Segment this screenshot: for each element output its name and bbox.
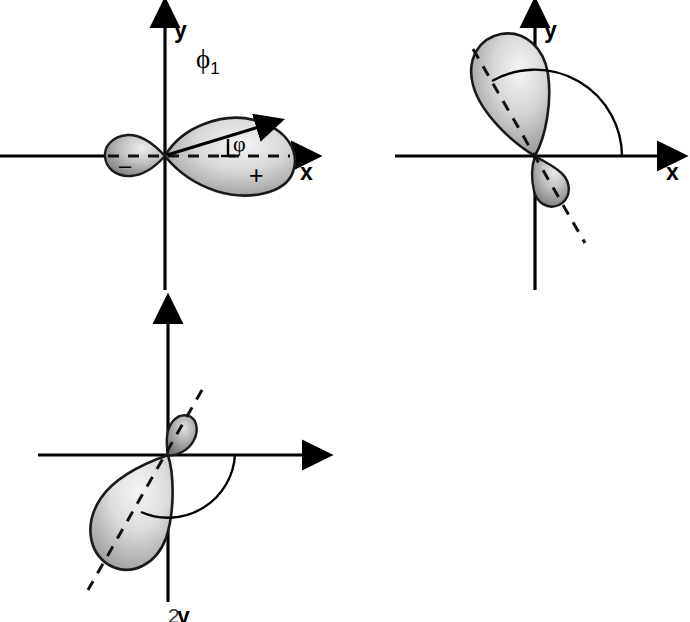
axis-group [38, 318, 308, 602]
lobe-sign-positive: + [249, 163, 264, 188]
orbital-panel-phi2: ϕ2 120° + – y x [345, 0, 690, 290]
caption-fragment: 2 [168, 604, 180, 622]
orbital-label-phi1: ϕ1 [196, 46, 220, 77]
x-axis-label: x [666, 161, 679, 184]
orbital-lobe-negative [167, 415, 197, 455]
orbital-diagram-phi1 [0, 0, 345, 290]
orbital-lobe-positive [471, 33, 549, 156]
orbital-panel-phi3: ϕ3 120° + – y x [0, 290, 345, 622]
bottom-cropped-caption: 2 [0, 596, 690, 622]
y-axis-label: y [544, 19, 557, 42]
orbital-lobe-negative [532, 156, 569, 207]
x-axis-label: x [300, 161, 313, 184]
orbital-diagram-phi3 [0, 290, 345, 622]
orbital-panel-phi1: ϕ1 φ + – y x [0, 0, 345, 290]
angle-symbol-phi: φ [233, 133, 246, 155]
orbital-diagram-phi2 [345, 0, 690, 290]
lobe-sign-negative: – [119, 155, 131, 177]
y-axis-label: y [174, 19, 187, 42]
